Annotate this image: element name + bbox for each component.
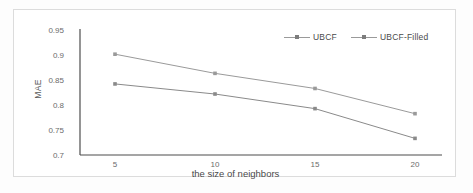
x-axis-title: the size of neighbors — [14, 168, 457, 179]
data-point-marker[interactable] — [313, 107, 317, 111]
data-point-marker[interactable] — [313, 87, 317, 91]
data-point-marker[interactable] — [213, 72, 217, 76]
chart-figure: MAE 0.95 0.9 0.85 0.8 0.75 0.7 5 10 15 2… — [0, 0, 473, 193]
series-line-1 — [115, 54, 415, 113]
series-line-2 — [115, 84, 415, 138]
data-point-marker[interactable] — [113, 52, 117, 56]
data-series-layer — [113, 52, 417, 140]
legend-item-ubcf-filled[interactable]: UBCF-Filled — [351, 32, 428, 42]
legend-item-ubcf[interactable]: UBCF — [284, 32, 337, 42]
legend-label: UBCF — [313, 32, 337, 42]
legend-line-marker-icon — [284, 34, 310, 41]
chart-legend: UBCF UBCF-Filled — [284, 32, 428, 42]
data-point-marker[interactable] — [413, 137, 417, 141]
data-point-marker[interactable] — [113, 82, 117, 86]
chart-frame: MAE 0.95 0.9 0.85 0.8 0.75 0.7 5 10 15 2… — [13, 9, 456, 177]
legend-label: UBCF-Filled — [380, 32, 428, 42]
legend-line-marker-icon — [351, 34, 377, 41]
data-point-marker[interactable] — [413, 112, 417, 116]
data-point-marker[interactable] — [213, 92, 217, 96]
